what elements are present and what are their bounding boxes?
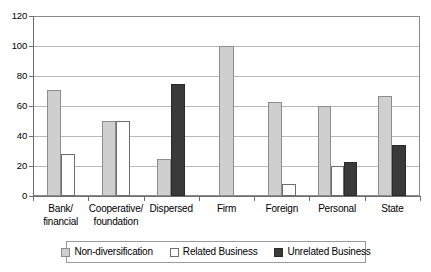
- legend-label: Unrelated Business: [287, 247, 370, 257]
- y-axis-tick-label: 60: [1, 101, 27, 111]
- bar-group: [365, 16, 420, 196]
- bar-group: [199, 16, 254, 196]
- x-tick: [420, 197, 421, 201]
- legend-item: Related Business: [170, 247, 258, 257]
- chart-legend: Non-diversificationRelated BusinessUnrel…: [66, 241, 366, 263]
- x-axis-category-labels: Bank/financialCooperative/foundationDisp…: [33, 202, 420, 238]
- bar: [318, 106, 331, 196]
- legend-swatch-unrelated-business: [274, 248, 283, 257]
- bar-group: [144, 16, 199, 196]
- y-axis-tick-label: 0: [1, 191, 27, 201]
- bar-group: [88, 16, 143, 196]
- x-tick: [199, 197, 200, 201]
- bar: [331, 166, 344, 196]
- x-tick: [365, 197, 366, 201]
- y-axis-tick-label: 20: [1, 161, 27, 171]
- bar: [282, 184, 296, 196]
- bar-group: [33, 16, 88, 196]
- legend-label: Related Business: [183, 247, 258, 257]
- x-axis-category-label: State: [357, 202, 428, 215]
- bar: [378, 96, 392, 197]
- bar: [47, 90, 61, 197]
- bar: [61, 154, 75, 196]
- bar: [219, 46, 234, 196]
- bar: [344, 162, 357, 197]
- x-axis-line: [33, 196, 421, 197]
- y-axis-tick-label: 100: [1, 41, 27, 51]
- y-tick-80: [29, 76, 33, 77]
- bar: [102, 121, 116, 196]
- bar: [392, 145, 406, 196]
- bar: [157, 159, 171, 197]
- bar-group: [309, 16, 364, 196]
- y-axis-tick-label: 120: [1, 11, 27, 21]
- y-tick-40: [29, 136, 33, 137]
- y-tick-60: [29, 106, 33, 107]
- y-tick-120: [29, 16, 33, 17]
- bar: [116, 121, 130, 196]
- bar-group: [254, 16, 309, 196]
- x-tick: [254, 197, 255, 201]
- x-axis-category-label-line: State: [357, 202, 428, 215]
- y-tick-100: [29, 46, 33, 47]
- legend-item: Non-diversification: [61, 247, 152, 257]
- legend-swatch-non-diversification: [61, 248, 70, 257]
- x-tick: [33, 197, 34, 201]
- legend-item: Unrelated Business: [274, 247, 370, 257]
- bar: [171, 84, 185, 197]
- x-tick: [309, 197, 310, 201]
- bar: [268, 102, 282, 197]
- y-axis-tick-label: 80: [1, 71, 27, 81]
- x-axis-category-label-line: foundation: [80, 215, 151, 228]
- x-tick: [88, 197, 89, 201]
- y-tick-20: [29, 166, 33, 167]
- legend-swatch-related-business: [170, 248, 179, 257]
- y-axis-tick-label: 40: [1, 131, 27, 141]
- legend-label: Non-diversification: [74, 247, 152, 257]
- y-axis-labels: 020406080100120: [0, 0, 27, 272]
- x-tick: [144, 197, 145, 201]
- bar-chart: 020406080100120 Bank/financialCooperativ…: [0, 0, 431, 272]
